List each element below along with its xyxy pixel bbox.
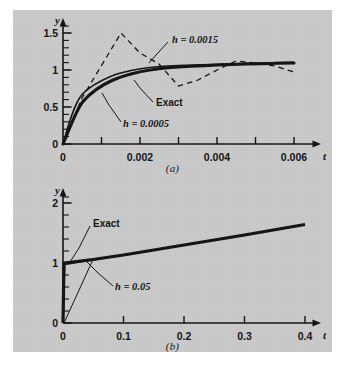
panel-b-ytick-1: 1 — [52, 257, 58, 269]
panel-a-x-ticks — [102, 137, 295, 144]
panel-a-plot: 0 0.5 1 1.5 0 0.002 0.004 0.006 y t — [13, 10, 332, 178]
panel-a-annotation-exact-label: Exact — [156, 97, 183, 108]
panel-a-y-axis — [60, 18, 67, 144]
panel-a-ytick-0p5: 0.5 — [43, 101, 58, 113]
panel-b-plot: 0 1 2 0 0.1 0.2 0.3 0.4 y t Ex — [13, 180, 332, 352]
panel-a-annotation-exact: Exact — [134, 80, 183, 108]
panel-a-x-axis-label: t — [323, 150, 327, 162]
panel-a-ytick-1: 1 — [52, 64, 58, 76]
panel-b-ytick-2: 2 — [52, 197, 58, 209]
panel-a-caption: (a) — [13, 162, 332, 174]
panel-a-y-minor-ticks — [63, 26, 69, 137]
figure-root: 0 0.5 1 1.5 0 0.002 0.004 0.006 y t — [0, 0, 346, 374]
panel-a-annotation-h0015: h = 0.0015 — [149, 34, 218, 63]
panel-b: 0 1 2 0 0.1 0.2 0.3 0.4 y t Ex — [13, 180, 332, 352]
panel-b-caption: (b) — [13, 340, 332, 352]
panel-a: 0 0.5 1 1.5 0 0.002 0.004 0.006 y t — [13, 10, 332, 178]
panel-a-ytick-0: 0 — [52, 138, 58, 150]
panel-b-x-ticks — [124, 316, 306, 323]
panel-a-y-axis-label: y — [53, 14, 60, 26]
panel-b-y-axis-label: y — [53, 184, 60, 196]
panel-b-annotation-h005-label: h = 0.05 — [115, 281, 150, 292]
panel-a-annotation-h0015-label: h = 0.0015 — [172, 34, 218, 45]
panel-b-annotation-exact-label: Exact — [93, 218, 120, 229]
panel-b-ytick-0: 0 — [52, 317, 58, 329]
panel-b-annotation-h005: h = 0.05 — [87, 262, 150, 292]
panel-a-ytick-1p5: 1.5 — [43, 27, 58, 39]
panel-b-step-origin-connector — [64, 260, 93, 324]
panel-b-x-axis — [63, 320, 321, 327]
panel-a-annotation-h0005-label: h = 0.0005 — [123, 118, 169, 129]
figure-plate: 0 0.5 1 1.5 0 0.002 0.004 0.006 y t — [13, 10, 332, 352]
